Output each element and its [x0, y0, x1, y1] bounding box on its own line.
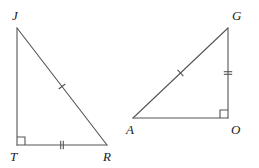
- triangle-JTR: [17, 28, 107, 149]
- triangle-AGO: [133, 28, 232, 118]
- geometry-canvas: [0, 0, 259, 168]
- tick-marks-JR: [59, 84, 66, 89]
- right-angle-marker-O: [220, 110, 228, 118]
- vertex-label-T: T: [10, 150, 17, 163]
- vertex-label-J: J: [12, 9, 18, 22]
- vertex-label-A: A: [126, 123, 134, 136]
- vertex-label-O: O: [231, 123, 240, 136]
- tick-mark: [59, 84, 66, 89]
- geometry-figure: JTRAGO: [0, 0, 259, 168]
- right-angle-marker-T: [17, 137, 25, 145]
- vertex-label-G: G: [232, 9, 241, 22]
- vertex-label-R: R: [103, 150, 111, 163]
